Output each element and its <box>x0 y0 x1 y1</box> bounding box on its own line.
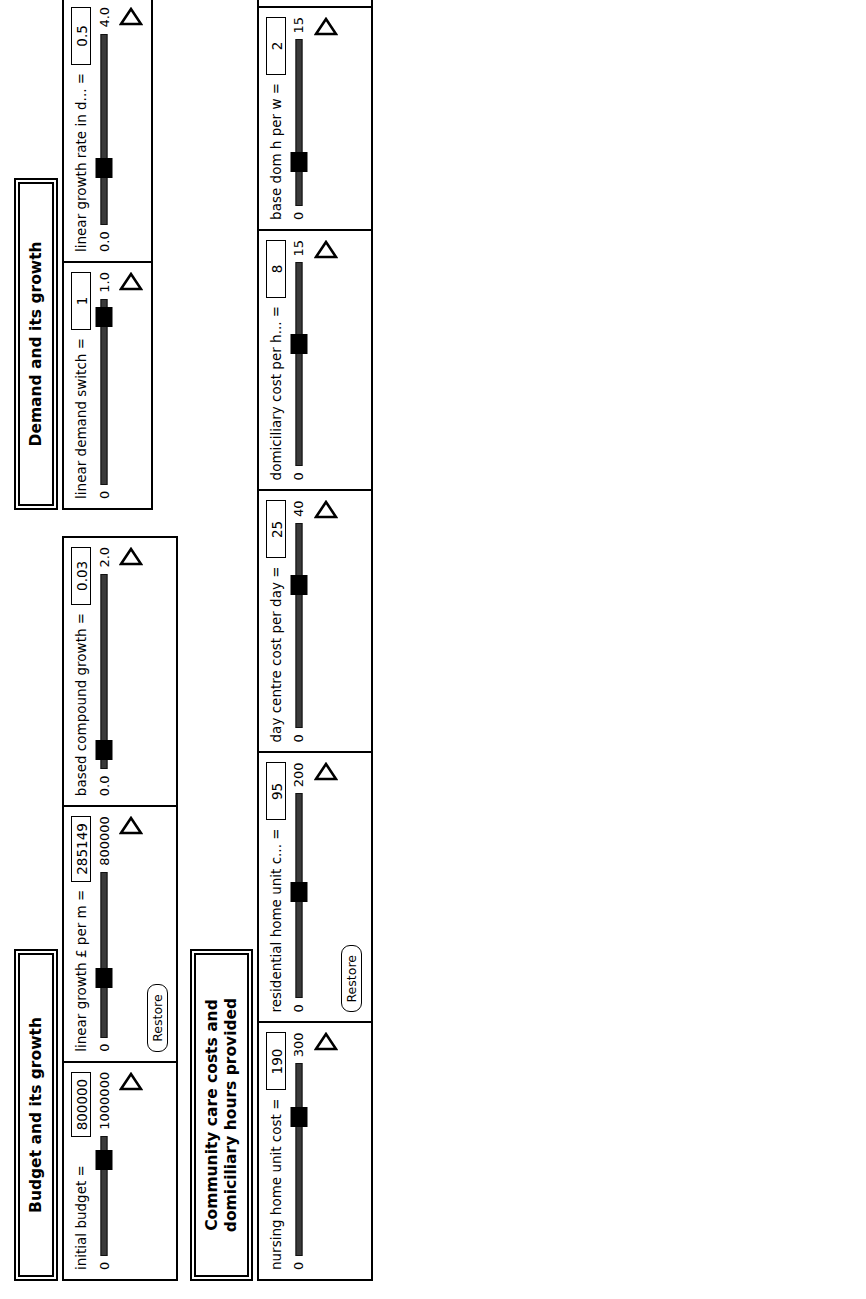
slider-thumb[interactable] <box>290 152 307 172</box>
slider-cell: initial budget =80000001000000 <box>64 1061 176 1279</box>
slider-header: linear growth £ per m =285149 <box>71 816 91 1052</box>
slider-thumb[interactable] <box>96 740 113 760</box>
slider-row: 015 <box>288 240 310 481</box>
slider-header: domiciliary cost per h... =8 <box>266 240 286 481</box>
slider-row: 0300 <box>288 1033 310 1271</box>
slider-track-groove <box>295 523 302 728</box>
slider-thumb[interactable] <box>290 882 307 902</box>
group-title-demand: Demand and its growth <box>18 182 54 506</box>
slider-max-label: 4.0 <box>97 7 112 28</box>
value-field[interactable]: 285149 <box>71 816 91 882</box>
value-field[interactable]: 25 <box>266 500 286 558</box>
slider-track[interactable] <box>93 1136 115 1256</box>
play-triangle-icon[interactable] <box>314 17 338 37</box>
slider-track[interactable] <box>288 262 310 466</box>
slider-cell: linear growth rate in d... =0.50.04.0 <box>64 0 151 261</box>
slider-thumb[interactable] <box>96 158 113 178</box>
slider-min-label: 0 <box>291 1262 306 1270</box>
value-field[interactable]: 95 <box>266 762 286 820</box>
band-top: Budget and its growth initial budget =80… <box>14 18 178 1281</box>
slider-track[interactable] <box>93 34 115 226</box>
restore-row: Restore <box>341 762 363 1012</box>
slider-thumb[interactable] <box>290 334 307 354</box>
slider-header: nursing home unit cost =190 <box>266 1033 286 1271</box>
play-triangle-icon[interactable] <box>119 7 143 27</box>
slider-track[interactable] <box>288 39 310 205</box>
slider-actions <box>119 1072 143 1270</box>
slider-max-label: 800000 <box>97 816 112 866</box>
slider-cell: based compound growth =0.030.02.0 <box>64 538 176 805</box>
slider-track[interactable] <box>93 872 115 1038</box>
slider-cell: domiciliary cost per h... =8015 <box>259 229 371 490</box>
slider-min-label: 0 <box>97 1262 112 1270</box>
value-field[interactable]: 1 <box>71 272 91 330</box>
restore-button[interactable]: Restore <box>341 945 362 1012</box>
value-field[interactable]: 190 <box>266 1033 286 1091</box>
sliders-community-costs: nursing home unit cost =1900300residenti… <box>257 0 373 1281</box>
slider-actions <box>119 7 143 252</box>
slider-cell: linear demand switch =101.0 <box>64 261 151 508</box>
slider-track[interactable] <box>93 299 115 485</box>
variable-label: domiciliary cost per h... = <box>268 306 284 481</box>
value-field[interactable]: 0.5 <box>71 7 91 65</box>
slider-track[interactable] <box>288 523 310 728</box>
play-triangle-icon[interactable] <box>314 240 338 260</box>
play-triangle-icon[interactable] <box>119 547 143 567</box>
variable-label: base dom h per w = <box>268 83 284 220</box>
slider-max-label: 15 <box>291 240 306 257</box>
slider-min-label: 0 <box>291 734 306 742</box>
slider-track[interactable] <box>93 574 115 770</box>
slider-thumb[interactable] <box>290 575 307 595</box>
slider-track-groove <box>295 1063 302 1255</box>
slider-track-groove <box>295 39 302 205</box>
variable-label: linear growth rate in d... = <box>73 73 89 252</box>
slider-actions <box>119 816 143 1052</box>
play-triangle-icon[interactable] <box>119 1072 143 1092</box>
variable-label: linear demand switch = <box>73 338 89 499</box>
play-triangle-icon[interactable] <box>314 1033 338 1053</box>
slider-thumb[interactable] <box>96 307 113 327</box>
value-field[interactable]: 800000 <box>71 1072 91 1138</box>
slider-row: 0.04.0 <box>93 7 115 252</box>
variable-label: day centre cost per day = <box>268 566 284 742</box>
slider-thumb[interactable] <box>290 1107 307 1127</box>
restore-row: Restore <box>146 816 168 1052</box>
play-triangle-icon[interactable] <box>119 272 143 292</box>
simulation-control-panel: Budget and its growth initial budget =80… <box>0 0 866 1299</box>
value-field[interactable]: 0.03 <box>71 547 91 605</box>
value-field[interactable]: 8 <box>266 240 286 298</box>
slider-header: day centre cost per day =25 <box>266 500 286 742</box>
slider-track[interactable] <box>288 1063 310 1255</box>
slider-thumb[interactable] <box>96 968 113 988</box>
slider-cell: day centre cost per day =25040 <box>259 489 371 751</box>
variable-label: linear growth £ per m = <box>73 890 89 1052</box>
slider-thumb[interactable] <box>96 1150 113 1170</box>
value-field[interactable]: 2 <box>266 17 286 75</box>
play-triangle-icon[interactable] <box>314 762 338 782</box>
slider-actions <box>119 547 143 796</box>
slider-track[interactable] <box>288 793 310 998</box>
slider-track-groove <box>101 34 108 226</box>
slider-max-label: 200 <box>291 762 306 787</box>
slider-max-label: 300 <box>291 1033 306 1058</box>
slider-header: based compound growth =0.03 <box>71 547 91 796</box>
slider-min-label: 0 <box>97 1044 112 1052</box>
play-triangle-icon[interactable] <box>314 500 338 520</box>
restore-row-spacer <box>341 500 363 742</box>
variable-label: initial budget = <box>73 1165 89 1270</box>
slider-max-label: 15 <box>291 17 306 34</box>
slider-header: base dom h per w =2 <box>266 17 286 220</box>
slider-row: 0200 <box>288 762 310 1012</box>
play-triangle-icon[interactable] <box>119 816 143 836</box>
group-community-costs: Community care costs and domiciliary hou… <box>190 0 373 1281</box>
slider-actions <box>314 500 338 742</box>
restore-button[interactable]: Restore <box>147 984 168 1051</box>
slider-actions <box>314 240 338 481</box>
slider-min-label: 0.0 <box>97 231 112 252</box>
slider-min-label: 0 <box>291 1004 306 1012</box>
variable-label: residential home unit c... = <box>268 828 284 1012</box>
group-demand: Demand and its growth linear demand swit… <box>14 0 153 510</box>
slider-max-label: 2.0 <box>97 547 112 568</box>
slider-header: initial budget =800000 <box>71 1072 91 1270</box>
slider-track-groove <box>295 262 302 466</box>
